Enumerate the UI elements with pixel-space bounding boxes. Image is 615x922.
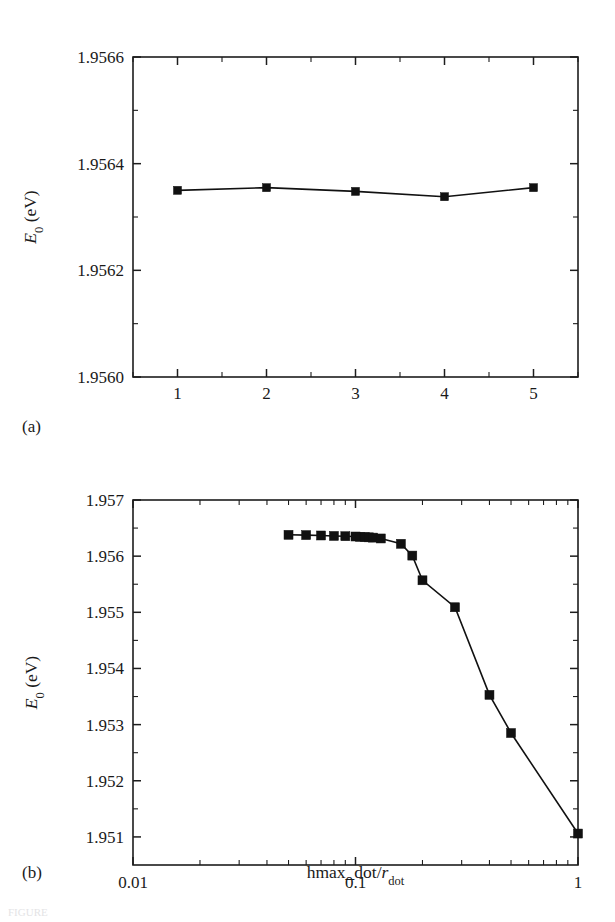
data-point-marker (450, 603, 459, 612)
panel-a: 123451.95601.95621.95641.9566E0 (eV)(a) (0, 0, 615, 455)
plot-frame (133, 57, 578, 377)
data-point-marker (376, 534, 385, 543)
svg-text:E0 (eV): E0 (eV) (20, 190, 46, 245)
y-tick-label: 1.952 (86, 772, 124, 791)
y-tick-label: 1.953 (86, 716, 124, 735)
data-point-marker (507, 729, 516, 738)
y-axis-title: E0 (eV) (20, 190, 46, 245)
x-tick-label: 3 (351, 384, 360, 403)
panel-label: (b) (22, 863, 42, 882)
chart-b: 0.010.111.9511.9521.9531.9541.9551.9561.… (0, 440, 615, 910)
x-tick-label: 1 (574, 873, 583, 892)
y-tick-label: 1.9564 (77, 155, 124, 174)
data-point-marker (174, 186, 182, 194)
x-tick-label: 2 (262, 384, 271, 403)
x-tick-label: 5 (529, 384, 538, 403)
figure-caption: FIGURE (8, 906, 608, 919)
y-axis-title: E0 (eV) (21, 656, 47, 711)
panel-b: 0.010.111.9511.9521.9531.9541.9551.9561.… (0, 440, 615, 910)
y-tick-label: 1.9566 (77, 48, 124, 67)
data-point-marker (317, 531, 326, 540)
data-point-marker (352, 187, 360, 195)
y-tick-label: 1.954 (86, 659, 125, 678)
svg-text:E0 (eV): E0 (eV) (21, 656, 47, 711)
data-point-marker (302, 531, 311, 540)
data-point-marker (263, 184, 271, 192)
data-point-marker (396, 539, 405, 548)
x-tick-label: 4 (440, 384, 449, 403)
data-point-marker (530, 184, 538, 192)
chart-a: 123451.95601.95621.95641.9566E0 (eV)(a) (0, 0, 615, 455)
data-point-marker (341, 532, 350, 541)
y-tick-label: 1.9562 (77, 261, 124, 280)
plot-frame (133, 500, 578, 865)
y-tick-label: 1.956 (86, 547, 124, 566)
data-point-marker (418, 576, 427, 585)
data-series-line (289, 535, 578, 834)
data-point-marker (574, 829, 583, 838)
y-tick-label: 1.957 (86, 491, 125, 510)
y-tick-label: 1.955 (86, 603, 124, 622)
figure-container: 123451.95601.95621.95641.9566E0 (eV)(a) … (0, 0, 615, 922)
data-point-marker (329, 531, 338, 540)
y-tick-label: 1.9560 (77, 368, 124, 387)
data-point-marker (441, 193, 449, 201)
data-point-marker (284, 530, 293, 539)
x-tick-label: 0.01 (118, 873, 148, 892)
data-point-marker (485, 690, 494, 699)
panel-label: (a) (22, 417, 41, 436)
y-tick-label: 1.951 (86, 828, 124, 847)
data-point-marker (408, 551, 417, 560)
x-tick-label: 1 (173, 384, 182, 403)
